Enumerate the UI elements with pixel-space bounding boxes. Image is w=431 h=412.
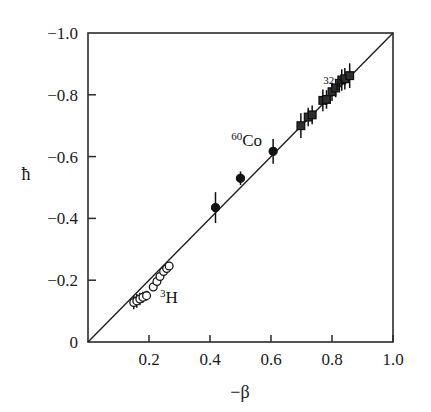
data-point-60Co (269, 147, 277, 155)
y-tick-label: −0.2 (47, 271, 78, 290)
y-tick-label: 0 (70, 333, 79, 352)
x-tick-label: 0.4 (199, 350, 221, 369)
label-p32-superscript: 32 (323, 74, 334, 86)
data-point-32P (308, 111, 316, 119)
label-co60-superscript: 60 (231, 130, 243, 142)
label-co60-text: Co (242, 131, 262, 150)
data-point-3H (165, 262, 173, 270)
scatter-plot: 0.20.40.60.81.0 −1.0−0.8−0.6−0.4−0.20 60… (0, 0, 431, 412)
data-point-32P (346, 72, 354, 80)
figure-container: 0.20.40.60.81.0 −1.0−0.8−0.6−0.4−0.20 60… (0, 0, 431, 412)
x-tick-label: 0.6 (260, 350, 281, 369)
y-tick-label: −0.4 (47, 209, 78, 228)
data-point-3H (143, 292, 151, 300)
data-point-60Co (236, 174, 244, 182)
y-tick-label: −1.0 (47, 24, 78, 43)
data-point-60Co (211, 203, 219, 211)
y-tick-label: −0.6 (47, 148, 78, 167)
label-p32-text: P (334, 75, 343, 94)
data-point-32P (323, 96, 331, 104)
y-tick-label: −0.8 (47, 86, 78, 105)
x-axis-title: −β (230, 382, 249, 402)
x-tick-label: 0.2 (138, 350, 159, 369)
data-point-32P (297, 122, 305, 130)
y-axis-title: ħ (22, 164, 31, 184)
label-h3-text: H (165, 288, 177, 307)
x-tick-label: 0.8 (321, 350, 342, 369)
x-tick-label: 1.0 (382, 350, 403, 369)
